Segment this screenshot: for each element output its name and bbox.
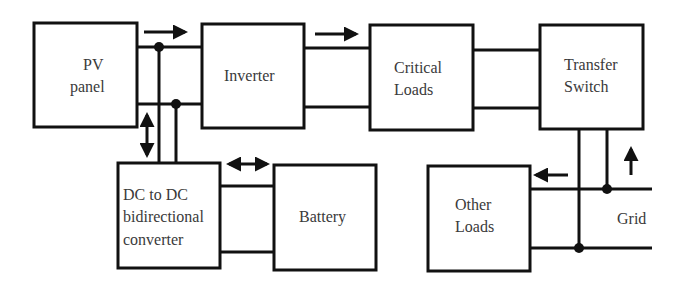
inverter-label: Inverter — [224, 67, 275, 84]
junction-dot — [154, 42, 164, 52]
transfer-switch-block — [540, 25, 643, 129]
grid-label: Grid — [617, 210, 646, 227]
junction-dot — [171, 99, 181, 109]
critical-loads-label: Critical Loads — [394, 59, 446, 98]
critical-loads-block — [370, 25, 473, 130]
pv-panel-label: PV panel — [70, 56, 107, 96]
dc-dc-converter-label: DC to DC bidirectional converter — [123, 186, 208, 248]
power-system-diagram: PV panel Inverter Critical Loads Transfe… — [0, 0, 685, 291]
transfer-switch-label: Transfer Switch — [564, 56, 622, 95]
junction-dot — [574, 243, 584, 253]
other-loads-label: Other Loads — [455, 196, 495, 235]
battery-label: Battery — [299, 208, 346, 226]
junction-dot — [602, 184, 612, 194]
pv-panel-block — [34, 23, 137, 127]
